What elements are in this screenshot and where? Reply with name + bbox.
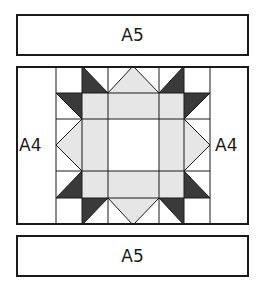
left-a4-label: A4 [19,135,41,155]
star-light-fill [56,66,210,225]
bottom-a5-label: A5 [121,246,143,266]
right-a4-label: A4 [215,135,237,155]
bottom-a5-panel: A5 [16,235,249,277]
